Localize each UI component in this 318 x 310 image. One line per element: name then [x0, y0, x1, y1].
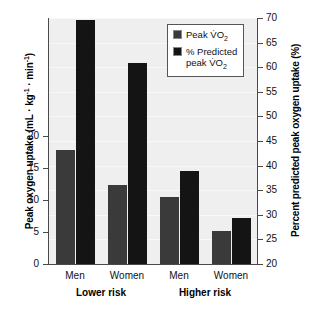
y-axis-left-title-sup2: -1	[23, 56, 30, 62]
legend-label-pct-predicted: % Predictedpeak V̇O2	[186, 46, 237, 72]
y-axis-right-tick-label: 55	[266, 87, 306, 97]
y-axis-right-tick-label: 20	[266, 259, 306, 269]
y-axis-right-tick	[258, 116, 263, 117]
y-axis-right-tick	[258, 67, 263, 68]
y-axis-right-tick	[258, 43, 263, 44]
x-axis-category-label: Women	[101, 270, 153, 281]
y-axis-right-tick	[258, 166, 263, 167]
y-axis-right-tick	[258, 92, 263, 93]
legend-item-peak-vo2: Peak V̇O2	[173, 29, 237, 44]
legend-label-peak-vo2-sub: 2	[224, 35, 228, 42]
x-axis-category-label: Men	[49, 270, 101, 281]
bar-peak-vo2	[212, 231, 231, 264]
x-axis-category-label: Men	[153, 270, 205, 281]
y-axis-right-tick-label: 35	[266, 185, 306, 195]
y-axis-right-tick	[258, 141, 263, 142]
axis-spine-bottom	[48, 264, 258, 265]
y-axis-left-title-mid: · min	[24, 62, 35, 88]
legend-label-pct-predicted-line1: % Predicted	[186, 46, 237, 57]
legend: Peak V̇O2 % Predictedpeak V̇O2	[167, 24, 244, 77]
x-axis-group-label: Higher risk	[153, 287, 257, 298]
bar-peak-vo2	[56, 150, 75, 264]
gridline	[49, 18, 257, 19]
y-axis-left-tick-label: 10	[0, 195, 39, 205]
bar-pct-predicted	[128, 63, 147, 264]
y-axis-right-tick	[258, 239, 263, 240]
bar-pct-predicted	[232, 218, 251, 264]
legend-swatch-peak-vo2	[173, 30, 182, 39]
legend-label-pct-predicted-sub: 2	[223, 63, 227, 70]
x-axis-category-label: Women	[205, 270, 257, 281]
legend-label-peak-vo2: Peak V̇O2	[186, 29, 228, 44]
y-axis-right-tick-label: 30	[266, 210, 306, 220]
bar-peak-vo2	[108, 185, 127, 264]
y-axis-left-tick	[43, 136, 48, 137]
bar-pct-predicted	[180, 171, 199, 264]
y-axis-right-tick	[258, 215, 263, 216]
x-axis-group-label: Lower risk	[49, 287, 153, 298]
y-axis-right-tick-label: 65	[266, 38, 306, 48]
y-axis-left-tick-label: 20	[0, 131, 39, 141]
y-axis-left-tick	[43, 264, 48, 265]
y-axis-left-tick-label: 5	[0, 227, 39, 237]
legend-label-pct-predicted-line2-text: peak V̇O	[186, 57, 223, 68]
bar-peak-vo2	[160, 197, 179, 264]
legend-swatch-pct-predicted	[173, 47, 182, 56]
y-axis-left-tick-label: 15	[0, 163, 39, 173]
y-axis-right-tick-label: 50	[266, 111, 306, 121]
y-axis-right-tick-label: 25	[266, 234, 306, 244]
y-axis-left-tick	[43, 168, 48, 169]
bar-pct-predicted	[76, 20, 95, 264]
y-axis-right-tick-label: 70	[266, 13, 306, 23]
y-axis-right-tick	[258, 18, 263, 19]
y-axis-right-tick-label: 40	[266, 161, 306, 171]
y-axis-right-tick-label: 60	[266, 62, 306, 72]
y-axis-left-tick	[43, 232, 48, 233]
y-axis-right-tick	[258, 190, 263, 191]
legend-item-pct-predicted: % Predictedpeak V̇O2	[173, 46, 237, 72]
y-axis-left-tick	[43, 200, 48, 201]
legend-label-peak-vo2-text: Peak V̇O	[186, 29, 224, 40]
y-axis-left-title-end: )	[24, 53, 35, 56]
y-axis-right-tick	[258, 264, 263, 265]
axis-spine-left	[48, 18, 49, 265]
y-axis-left-tick-label: 0	[0, 259, 39, 269]
chart-figure: Peak oxygen uptake (mL · kg-1 · min-1) P…	[0, 0, 318, 310]
y-axis-right-tick-label: 45	[266, 136, 306, 146]
legend-label-pct-predicted-line2: peak V̇O2	[186, 57, 237, 72]
y-axis-left-title-sup1: -1	[23, 88, 30, 94]
